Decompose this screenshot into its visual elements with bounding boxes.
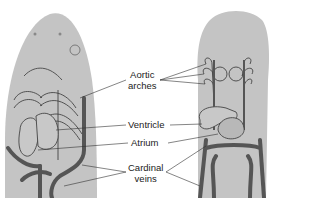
label-cardinal-veins: Cardinal veins (128, 162, 163, 184)
right-embryo-body (198, 11, 270, 198)
right-atrium (218, 118, 244, 139)
label-aortic-arches-line1: Aortic (128, 69, 157, 80)
leader-aortic-right2 (160, 74, 204, 80)
right-eye-spot (59, 33, 62, 36)
label-ventricle: Ventricle (128, 119, 164, 130)
leader-cardinal-right2 (166, 172, 200, 186)
label-cardinal-veins-line2: veins (128, 173, 163, 184)
label-aortic-arches-line2: arches (128, 80, 157, 91)
leader-ventricle-right (170, 124, 202, 125)
label-atrium: Atrium (131, 137, 158, 148)
label-aortic-arches: Aortic arches (128, 69, 157, 91)
left-eye-spot (34, 33, 37, 36)
label-cardinal-veins-line1: Cardinal (128, 162, 163, 173)
